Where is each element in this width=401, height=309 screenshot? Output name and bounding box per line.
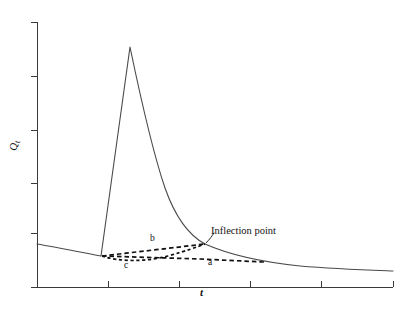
hydrograph-figure: Qt t a b c Inflection point bbox=[0, 0, 401, 309]
y-axis-label: Qt bbox=[8, 141, 22, 151]
inflection-point-annotation: Inflection point bbox=[211, 226, 276, 237]
separation-line-c bbox=[102, 244, 205, 261]
x-axis-ticks bbox=[37, 281, 393, 287]
y-axis-label-text: Q bbox=[7, 143, 19, 151]
hydrograph-curve bbox=[37, 47, 393, 271]
separation-line-c-label: c bbox=[124, 261, 128, 271]
separation-line-a-label: a bbox=[208, 258, 212, 268]
y-axis-ticks bbox=[31, 22, 37, 287]
x-axis-label: t bbox=[200, 287, 203, 298]
chart-canvas bbox=[0, 0, 401, 309]
y-axis-label-subscript: t bbox=[13, 141, 22, 143]
separation-line-b-label: b bbox=[150, 234, 155, 244]
